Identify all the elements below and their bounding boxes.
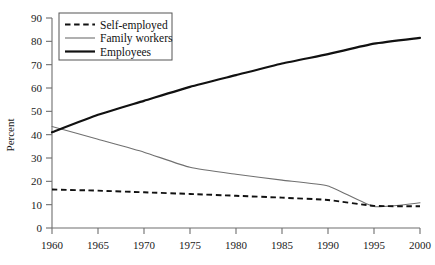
y-tick-label: 30: [31, 152, 43, 164]
legend-label-self-employed: Self-employed: [100, 19, 168, 32]
y-tick-label: 50: [31, 105, 43, 117]
x-tick-label: 1990: [317, 239, 340, 251]
y-tick-label: 0: [37, 222, 43, 234]
legend-label-employees: Employees: [100, 46, 152, 59]
line-chart: Percent 0102030405060708090 196019651970…: [0, 0, 435, 265]
x-tick-label: 1975: [179, 239, 202, 251]
y-tick-label: 40: [31, 129, 43, 141]
x-tick-label: 1985: [271, 239, 294, 251]
legend: Self-employed Family workers Employees: [59, 13, 173, 60]
y-axis-title: Percent: [4, 119, 16, 152]
x-tick-label: 1960: [41, 239, 64, 251]
y-tick-label: 60: [31, 82, 43, 94]
y-tick-label: 90: [31, 12, 43, 24]
legend-label-family-workers: Family workers: [100, 32, 173, 45]
x-tick-label: 1970: [133, 239, 156, 251]
x-tick-label: 1980: [225, 239, 248, 251]
x-tick-label: 1965: [87, 239, 110, 251]
x-tick-label: 1995: [363, 239, 386, 251]
y-tick-label: 10: [31, 199, 43, 211]
y-tick-label: 80: [31, 35, 43, 47]
chart-svg: Percent 0102030405060708090 196019651970…: [0, 0, 435, 265]
x-tick-label: 2000: [409, 239, 432, 251]
y-tick-label: 70: [31, 59, 43, 71]
y-tick-label: 20: [31, 175, 43, 187]
